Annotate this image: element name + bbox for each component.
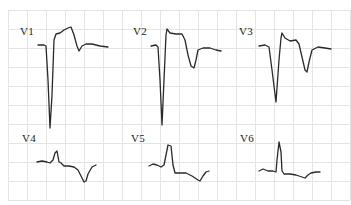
ecg-trace-v2 [151,29,221,125]
ecg-chart [0,0,351,205]
lead-label-v5: V5 [131,132,145,144]
lead-label-v6: V6 [240,132,254,144]
lead-label-v2: V2 [133,25,147,37]
ecg-trace-v4 [37,151,96,182]
lead-label-v4: V4 [22,132,36,144]
ecg-grid [8,10,351,201]
lead-label-v1: V1 [20,25,34,37]
ecg-trace-v6 [259,142,320,178]
ecg-trace-v1 [38,27,108,128]
ecg-traces [37,27,331,182]
lead-label-v3: V3 [239,25,253,37]
